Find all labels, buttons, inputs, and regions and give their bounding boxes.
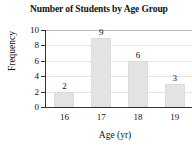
- bar: [165, 84, 185, 107]
- y-axis-label: Frequency: [7, 15, 17, 87]
- y-tick-label: 10: [30, 25, 39, 35]
- x-axis-label: Age (yr): [38, 130, 192, 140]
- gridline: [46, 76, 192, 77]
- bar-chart: Number of Students by Age Group Frequenc…: [0, 0, 192, 150]
- bar-value-label: 6: [136, 50, 141, 60]
- y-tick-mark: [41, 61, 45, 62]
- y-axis-tick: 4: [45, 76, 46, 77]
- bar-value-label: 9: [99, 27, 104, 37]
- gridline: [46, 61, 192, 62]
- bar-value-label: 3: [172, 73, 177, 83]
- x-tick-label: 16: [60, 112, 69, 122]
- bar: [128, 61, 148, 107]
- bar: [54, 92, 74, 107]
- x-tick-label: 18: [133, 112, 142, 122]
- y-tick-label: 2: [35, 87, 40, 97]
- y-axis-tick: 10: [45, 30, 46, 31]
- y-tick-label: 8: [35, 40, 40, 50]
- x-tick-label: 19: [170, 112, 179, 122]
- gridline: [46, 30, 192, 31]
- y-tick-mark: [41, 76, 45, 77]
- y-tick-mark: [41, 45, 45, 46]
- bar-value-label: 2: [62, 81, 67, 91]
- plot-area: 0246810 2963 16171819: [45, 30, 192, 108]
- y-tick-mark: [41, 92, 45, 93]
- y-tick-label: 0: [35, 102, 40, 112]
- gridline: [46, 45, 192, 46]
- y-axis-tick: 2: [45, 92, 46, 93]
- y-axis-tick: 6: [45, 61, 46, 62]
- y-tick-label: 6: [35, 56, 40, 66]
- y-axis-tick: 8: [45, 45, 46, 46]
- y-axis-tick: 0: [45, 107, 46, 108]
- x-tick-label: 17: [97, 112, 106, 122]
- y-tick-mark: [41, 30, 45, 31]
- chart-title: Number of Students by Age Group: [30, 3, 192, 15]
- y-tick-mark: [41, 107, 45, 108]
- bar: [91, 38, 111, 107]
- y-tick-label: 4: [35, 71, 40, 81]
